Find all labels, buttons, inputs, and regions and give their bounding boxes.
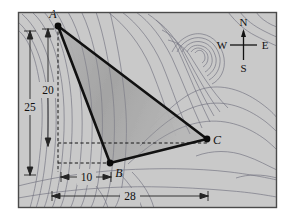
dimension-25-label: 25 <box>24 101 36 113</box>
topographic-map-figure: A B C 25 20 <box>0 0 305 222</box>
dimension-20-label: 20 <box>42 84 54 96</box>
dimension-28-label: 28 <box>124 190 136 202</box>
vertex-label-b: B <box>115 166 123 180</box>
compass-label-south: S <box>240 62 246 74</box>
dimension-10-label: 10 <box>81 171 93 183</box>
compass-label-west: W <box>217 39 228 51</box>
vertex-label-a: A <box>48 7 57 21</box>
vertex-dot-b <box>107 160 114 167</box>
vertex-dot-c <box>204 136 211 143</box>
compass-label-east: E <box>262 39 269 51</box>
vertex-dot-a <box>55 23 62 30</box>
vertex-label-c: C <box>213 133 222 147</box>
compass-label-north: N <box>240 16 248 28</box>
figure-page: A B C 25 20 <box>0 0 305 222</box>
